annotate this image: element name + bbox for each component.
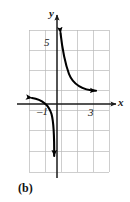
figure-caption: (b) [18,182,33,194]
graph-canvas [0,0,130,202]
x-tick-label-3: 3 [88,107,94,118]
function-curve [32,33,96,156]
y-tick-label-5: 5 [44,37,50,48]
rational-function-figure: y x 5 –1 3 (b) [0,0,130,202]
x-axis-label: x [118,97,124,108]
x-tick-label-negative-1: –1 [37,106,48,117]
axes [17,15,116,178]
curve-right-branch [61,33,97,91]
y-axis-label: y [49,8,54,19]
